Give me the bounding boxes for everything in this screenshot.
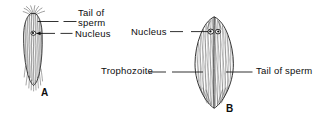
- callout-label-tail-of-sperm-a: Tail ofsperm: [78, 8, 105, 28]
- figure-canvas: Tail ofsperm Nucleus A Nucleus Trophozoi…: [0, 0, 321, 131]
- callout-label-nucleus-b: Nucleus: [131, 27, 167, 37]
- specimen-a: [20, 6, 46, 91]
- callout-label-trophozoite-b: Trophozoite: [101, 66, 153, 76]
- specimen-b-left-texture: [193, 14, 217, 110]
- specimen-b: [193, 14, 236, 110]
- callout-line-2: sperm: [78, 17, 105, 28]
- specimen-a-sperm-tails: [23, 6, 44, 16]
- panel-letter-a: A: [41, 87, 48, 98]
- callout-label-tail-of-sperm-b: Tail of sperm: [256, 66, 312, 76]
- callout-label-nucleus-a: Nucleus: [75, 29, 111, 39]
- panel-letter-b: B: [226, 103, 233, 114]
- specimen-a-nucleus-marker: [31, 31, 36, 35]
